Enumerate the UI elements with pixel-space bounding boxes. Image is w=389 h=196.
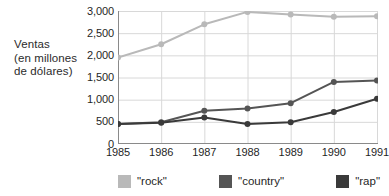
legend-label: "rock" — [137, 175, 167, 187]
legend-label: "country" — [238, 175, 284, 187]
y-tick-label: 1,000 — [68, 94, 114, 105]
plot-area — [118, 11, 378, 144]
data-point — [288, 12, 294, 18]
legend-item-2[interactable]: "country" — [219, 175, 284, 188]
x-tick-label: 1986 — [149, 147, 173, 158]
y-axis-tick-labels: 05001,0001,5002,0002,5003,000 — [66, 0, 114, 196]
legend-item-1[interactable]: "rock" — [118, 175, 167, 188]
x-tick-label: 1987 — [192, 147, 216, 158]
data-point — [288, 100, 294, 106]
legend-swatch-icon — [118, 175, 131, 188]
y-tick-label: 500 — [68, 116, 114, 127]
legend-label: "rap" — [355, 175, 380, 187]
data-point — [158, 41, 164, 47]
x-tick-label: 1989 — [279, 147, 303, 158]
data-point — [331, 109, 337, 115]
plot-canvas — [118, 11, 378, 144]
legend-item-3[interactable]: "rap" — [336, 175, 380, 188]
data-point — [331, 79, 337, 85]
chart-legend: "rock""country""rap" — [118, 171, 380, 191]
legend-swatch-icon — [336, 175, 349, 188]
data-point — [201, 114, 207, 120]
data-point — [374, 96, 378, 102]
data-point — [245, 121, 251, 127]
x-axis-tick-labels: 1985198619871988198919901991 — [118, 147, 378, 163]
data-point — [374, 13, 378, 19]
data-point — [201, 21, 207, 27]
data-point — [245, 106, 251, 112]
x-tick-label: 1988 — [235, 147, 259, 158]
y-tick-label: 2,500 — [68, 28, 114, 39]
x-tick-label: 1990 — [322, 147, 346, 158]
data-point — [201, 108, 207, 114]
data-point — [158, 120, 164, 126]
data-point — [331, 14, 337, 20]
data-point — [245, 11, 251, 15]
legend-swatch-icon — [219, 175, 232, 188]
x-tick-label: 1985 — [106, 147, 130, 158]
data-point — [288, 119, 294, 125]
y-tick-label: 1,500 — [68, 72, 114, 83]
y-tick-label: 2,000 — [68, 50, 114, 61]
x-tick-label: 1991 — [365, 147, 389, 158]
y-tick-label: 3,000 — [68, 6, 114, 17]
